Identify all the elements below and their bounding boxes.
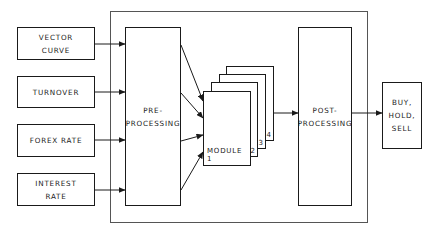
arrow-preprocessing-to-module-d <box>181 152 203 190</box>
arrow-preprocessing-to-module-b <box>181 93 203 118</box>
connector-arrows <box>0 0 438 234</box>
arrow-preprocessing-to-module-a <box>181 45 203 101</box>
trading-system-block-diagram: VECTOR CURVE TURNOVER FOREX RATE INTERES… <box>0 0 438 234</box>
arrow-preprocessing-to-module-c <box>181 135 203 141</box>
